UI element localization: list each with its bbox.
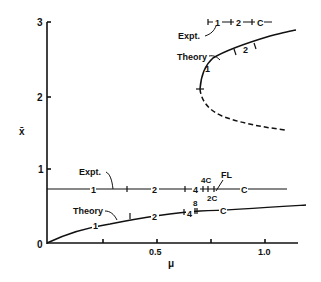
x-axis-label: μ (168, 258, 174, 269)
lower-expt-label: Expt. (79, 167, 101, 177)
y-axis-label: x̄ (19, 126, 25, 137)
lower-theory-marker-2: 2 (152, 212, 157, 222)
lower-expt-marker-1: 1 (91, 185, 96, 195)
lower-expt-marker-2c: 2C (207, 194, 217, 203)
lower-theory-pointer (105, 211, 117, 220)
upper-expt-label: Expt. (178, 31, 200, 41)
upper-theory-stable-curve (200, 30, 296, 89)
upper-theory-marker-2: 2 (243, 45, 248, 55)
lower-expt-marker-2: 2 (152, 185, 157, 195)
lower-theory-marker-8: 8 (193, 199, 198, 208)
x-tick-1-0: 1.0 (258, 247, 271, 257)
lower-theory-label: Theory (73, 206, 103, 216)
lower-expt-marker-4c: 4C (201, 176, 211, 185)
y-tick-1: 1 (38, 164, 44, 175)
lower-expt-pointer (106, 172, 113, 189)
origin-label: 0 (37, 239, 43, 250)
upper-theory-unstable-curve (200, 89, 285, 130)
lower-expt-marker-4: 4 (193, 185, 198, 195)
flutter-label: FL (221, 170, 232, 180)
upper-expt-marker-c: C (257, 18, 264, 28)
y-tick-2: 2 (37, 92, 43, 103)
lower-theory-marker-1: 1 (93, 221, 98, 231)
upper-expt-marker-2: 2 (236, 18, 241, 28)
upper-theory-marker-1: 1 (205, 64, 210, 74)
lower-theory-marker-4: 4 (187, 209, 192, 219)
bifurcation-chart: 3 2 1 0 0.5 1.0 μ x̄ 1 2 1 2 C Expt. The… (0, 0, 321, 282)
x-tick-0-5: 0.5 (149, 247, 162, 257)
y-tick-3: 3 (37, 17, 43, 28)
lower-expt-marker-c: C (241, 185, 248, 195)
upper-theory-label: Theory (177, 52, 207, 62)
lower-theory-marker-c: C (220, 206, 227, 216)
chart-canvas: 3 2 1 0 0.5 1.0 μ x̄ 1 2 1 2 C Expt. The… (0, 0, 321, 282)
